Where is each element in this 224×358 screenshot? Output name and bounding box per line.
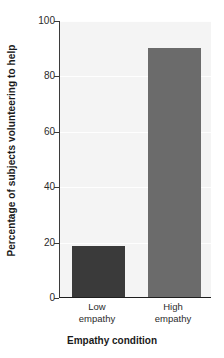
- x-axis-tick-label-line: empathy: [135, 313, 211, 325]
- x-axis-tick-label-line: empathy: [59, 313, 135, 325]
- y-axis-tick-mark: [54, 298, 59, 299]
- x-axis-tick-label: Highempathy: [135, 301, 211, 325]
- x-axis-tick-label-line: Low: [59, 301, 135, 313]
- x-axis-tick-labels: LowempathyHighempathy: [59, 301, 211, 331]
- x-axis-tick-label: Lowempathy: [59, 301, 135, 325]
- bar-chart: Percentage of subjects volunteering to h…: [0, 0, 224, 358]
- x-axis-tick-label-line: High: [135, 301, 211, 313]
- gridline: [60, 21, 211, 22]
- bar: [148, 48, 201, 297]
- x-axis-title: Empathy condition: [0, 335, 224, 346]
- bar: [72, 246, 125, 297]
- plot-area: [59, 21, 211, 298]
